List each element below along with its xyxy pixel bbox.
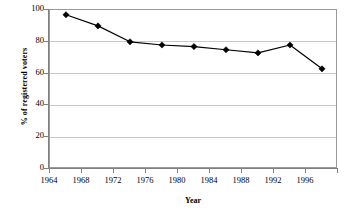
y-tick-label-40: 40	[20, 99, 44, 108]
data-series-line	[50, 10, 338, 169]
x-axis-title: Year	[49, 196, 337, 205]
data-point-1984	[223, 47, 229, 53]
data-point-1972	[127, 39, 133, 45]
data-point-1964	[63, 12, 69, 18]
x-tick-mark-9	[337, 168, 338, 173]
y-tick-label-0: 0	[20, 163, 44, 172]
plot-area	[49, 9, 337, 168]
x-tick-mark-7	[273, 168, 274, 173]
y-tick-label-80: 80	[20, 36, 44, 45]
chart-container: % of registered voters 100 80 60 40 20 0	[0, 0, 347, 213]
y-tick-label-20: 20	[20, 131, 44, 140]
x-tick-mark-5	[209, 168, 210, 173]
x-tick-mark-1	[81, 168, 82, 173]
data-point-1980	[191, 43, 197, 49]
x-tick-mark-3	[145, 168, 146, 173]
y-tick-label-100: 100	[20, 4, 44, 13]
x-tick-label-1996: 1996	[285, 175, 325, 185]
data-point-1976	[159, 42, 165, 48]
data-point-1988	[255, 50, 261, 56]
x-tick-mark-8	[305, 168, 306, 173]
x-tick-mark-2	[113, 168, 114, 173]
y-tick-label-60: 60	[20, 68, 44, 77]
x-tick-mark-4	[177, 168, 178, 173]
x-tick-mark-0	[49, 168, 50, 173]
x-axis-line	[49, 168, 337, 169]
x-tick-mark-6	[241, 168, 242, 173]
data-point-1968	[95, 23, 101, 29]
